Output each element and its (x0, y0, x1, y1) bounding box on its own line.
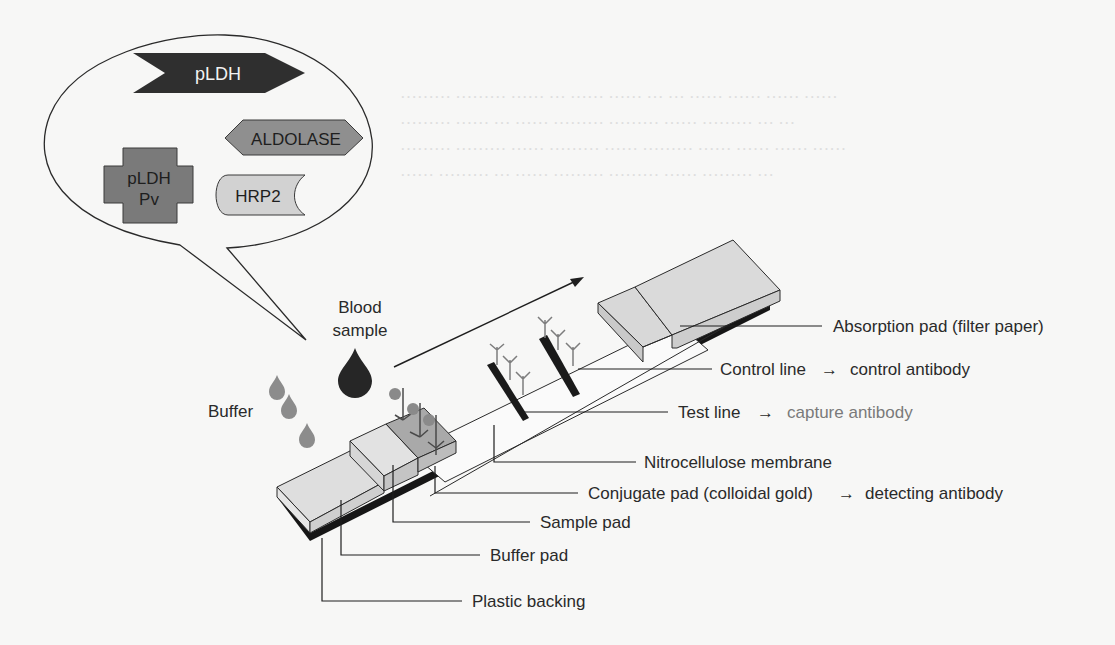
label-test-line: Test line (678, 403, 740, 422)
pldh-pv-label-line2: Pv (139, 190, 159, 209)
buffer-label: Buffer (208, 402, 253, 421)
label-conjugate-pad: Conjugate pad (colloidal gold) (588, 484, 813, 503)
label-plastic-backing: Plastic backing (472, 592, 585, 611)
label-control-antibody: control antibody (850, 360, 971, 379)
flow-arrowhead-icon (570, 277, 584, 287)
label-sample-pad: Sample pad (540, 513, 631, 532)
arrow-icon: → (838, 484, 855, 503)
blood-sample-label-line2: sample (333, 321, 388, 340)
label-detecting-antibody: detecting antibody (865, 484, 1003, 503)
hrp2-label: HRP2 (235, 187, 280, 206)
bleed-through-text: ……… ……… …… … …… …… … … …… …… …… …… (400, 80, 838, 105)
colloidal-gold-icon (423, 414, 435, 426)
arrow-icon: → (821, 360, 838, 379)
colloidal-gold-icon (389, 388, 401, 400)
label-nitrocellulose: Nitrocellulose membrane (644, 453, 832, 472)
aldolase-label: ALDOLASE (251, 130, 341, 149)
buffer-drop-icon (299, 423, 315, 448)
arrow-icon: → (757, 403, 774, 422)
bleed-through-text: ……… …… … …… ……… ……… …… ……… … … (400, 106, 795, 131)
antigen-hrp2: HRP2 (216, 175, 305, 215)
blood-sample-label-line1: Blood (338, 298, 381, 317)
pldh-pv-label-line1: pLDH (127, 169, 170, 188)
antigen-bubble: pLDH ALDOLASE pLDH Pv HRP2 (44, 35, 372, 340)
buffer-drop-icon (281, 394, 297, 419)
label-buffer-pad: Buffer pad (490, 546, 568, 565)
label-capture-antibody: capture antibody (787, 403, 913, 422)
bleed-through-text: …… ……… … …… ……… ……… …… ……… … (400, 158, 774, 183)
label-absorption-pad: Absorption pad (filter paper) (833, 317, 1044, 336)
buffer-drop-icon (269, 375, 285, 400)
bleed-through-text: ……… ……… …… ……… …… ……… …… …… …… …… (400, 132, 846, 157)
blood-drop-icon (338, 348, 372, 398)
colloidal-gold-icon (407, 403, 419, 415)
antigen-aldolase: ALDOLASE (225, 120, 363, 155)
pldh-label: pLDH (195, 64, 241, 84)
figure-canvas: ……… ……… …… … …… …… … … …… …… …… …… ……… …… (0, 0, 1115, 645)
label-control-line: Control line (720, 360, 806, 379)
